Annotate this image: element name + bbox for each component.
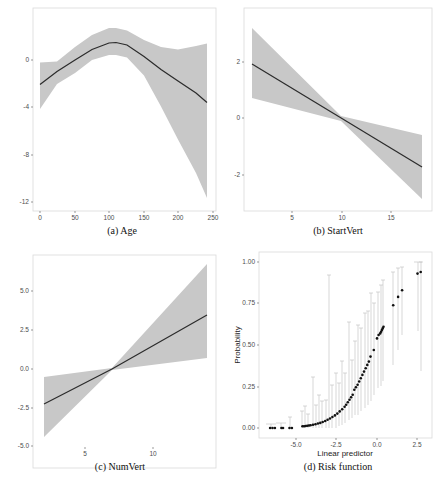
data-point <box>336 412 339 415</box>
y-tick-label: 0.75 <box>242 299 255 306</box>
data-point <box>351 394 354 397</box>
data-point <box>338 410 341 413</box>
data-point <box>347 401 350 404</box>
x-tick-label: 10 <box>149 450 157 457</box>
data-point <box>363 370 366 373</box>
data-point <box>324 420 327 423</box>
x-axis: 5 10 15 <box>290 211 395 221</box>
x-tick-label: 5 <box>290 214 294 221</box>
y-axis: 5.0 2.5 0.0 -2.5 -5.0 <box>18 287 33 449</box>
y-tick-label: 1.00 <box>242 258 255 265</box>
y-tick-label: 5.0 <box>20 287 29 294</box>
y-tick-label: -2 <box>234 171 240 178</box>
x-tick-label: 2.5 <box>412 441 421 448</box>
panel-age: 0 -4 -8 -12 0 50 100 150 200 250 (a) Age <box>20 8 219 237</box>
data-point <box>361 374 364 377</box>
caption: (a) Age <box>107 225 137 237</box>
x-tick-label: -5.0 <box>290 441 302 448</box>
data-point <box>373 349 376 352</box>
x-tick-label: 0.0 <box>372 441 381 448</box>
y-tick-label: -12 <box>20 198 30 205</box>
caption: (d) Risk function <box>304 461 372 473</box>
x-tick-label: 15 <box>387 214 395 221</box>
y-tick-label: -5.0 <box>18 442 30 449</box>
data-point <box>312 423 315 426</box>
y-tick-label: 2 <box>236 58 240 65</box>
y-axis: 0 -4 -8 -12 <box>20 56 33 205</box>
data-point <box>401 289 404 292</box>
figure: 0 -4 -8 -12 0 50 100 150 200 250 (a) Age <box>0 0 447 493</box>
data-point <box>416 272 419 275</box>
data-point <box>345 404 348 407</box>
data-point <box>397 296 400 299</box>
y-tick-label: 0.00 <box>242 424 255 431</box>
y-axis-label: Probability <box>233 326 242 363</box>
panel-startvert: 2 0 -2 5 10 15 (b) StartVert <box>234 8 432 237</box>
y-tick-label: 0 <box>236 114 240 121</box>
data-point <box>331 416 334 419</box>
x-tick-label: 150 <box>139 214 150 221</box>
y-tick-label: -8 <box>23 151 29 158</box>
data-point <box>355 386 358 389</box>
data-point <box>382 325 385 328</box>
data-point <box>368 360 371 363</box>
data-point <box>356 384 359 387</box>
x-tick-label: 0 <box>38 214 42 221</box>
data-point <box>360 377 363 380</box>
data-point <box>319 422 322 425</box>
y-axis: 2 0 -2 <box>234 58 244 178</box>
y-tick-label: -4 <box>23 103 29 110</box>
data-point <box>314 423 317 426</box>
data-point <box>364 367 367 370</box>
data-point <box>358 380 361 383</box>
data-point <box>271 427 274 430</box>
y-tick-label: 0.50 <box>242 341 255 348</box>
x-axis: 0 50 100 150 200 250 <box>38 211 219 221</box>
data-point <box>348 399 351 402</box>
x-axis: -5.0 -2.5 0.0 2.5 <box>290 438 421 448</box>
caption: (c) NumVert <box>95 461 145 473</box>
data-point <box>329 417 332 420</box>
x-tick-label: 200 <box>173 214 184 221</box>
data-point <box>392 304 395 307</box>
plot-frame <box>259 252 432 438</box>
data-point <box>353 389 356 392</box>
data-point <box>369 355 372 358</box>
x-tick-label: -2.5 <box>330 441 342 448</box>
y-tick-label: 2.5 <box>20 326 29 333</box>
x-tick-label: 50 <box>71 214 79 221</box>
y-tick-label: 0.25 <box>242 383 255 390</box>
panel-risk-function: 1.00 0.75 0.50 0.25 0.00 -5.0 -2.5 0.0 2… <box>233 252 432 473</box>
data-point <box>366 364 369 367</box>
x-axis-label: Linear predictor <box>317 449 373 458</box>
data-point <box>334 414 337 417</box>
data-point <box>282 427 285 430</box>
x-tick-label: 10 <box>338 214 346 221</box>
data-point <box>321 421 324 424</box>
y-tick-label: 0 <box>25 56 29 63</box>
data-point <box>317 422 320 425</box>
x-tick-label: 100 <box>104 214 115 221</box>
data-point <box>309 424 312 427</box>
y-axis: 1.00 0.75 0.50 0.25 0.00 <box>242 258 259 431</box>
y-tick-label: 0.0 <box>20 365 29 372</box>
caption: (b) StartVert <box>313 225 363 237</box>
data-point <box>274 427 277 430</box>
y-tick-label: -2.5 <box>18 404 30 411</box>
x-tick-label: 5 <box>83 450 87 457</box>
data-point <box>288 427 291 430</box>
data-point <box>350 396 353 399</box>
data-point <box>291 427 294 430</box>
panel-numvert: 5.0 2.5 0.0 -2.5 -5.0 5 10 (c) NumVert <box>18 255 216 473</box>
data-point <box>376 337 379 340</box>
data-point <box>419 271 422 274</box>
x-tick-label: 250 <box>208 214 219 221</box>
data-point <box>341 408 344 411</box>
data-point <box>326 418 329 421</box>
data-point <box>269 427 272 430</box>
